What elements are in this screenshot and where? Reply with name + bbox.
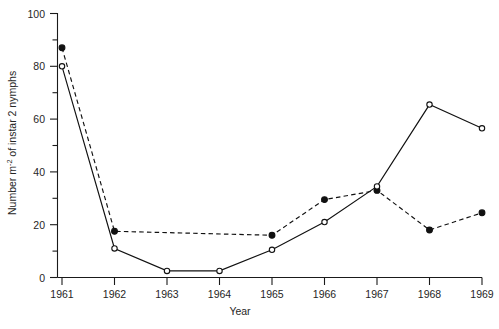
data-point-1963	[164, 268, 169, 273]
x-tick-label-1962: 1962	[103, 288, 127, 300]
x-axis-tick-labels: 1961 1962 1963 1964 1965 1966 1967 1968 …	[50, 288, 494, 300]
y-tick-label-80: 80	[33, 60, 45, 72]
series-line	[62, 48, 482, 235]
data-point-1967	[374, 184, 379, 189]
data-point-1969	[479, 126, 484, 131]
y-tick-label-40: 40	[33, 166, 45, 178]
y-axis-ticks	[50, 14, 58, 278]
data-point-1964	[217, 268, 222, 273]
y-tick-label-100: 100	[27, 8, 45, 20]
series-filled-circle-dashed	[59, 45, 485, 238]
data-point-1965	[269, 232, 275, 238]
x-tick-label-1964: 1964	[208, 288, 232, 300]
x-tick-label-1961: 1961	[50, 288, 74, 300]
x-tick-label-1967: 1967	[365, 288, 389, 300]
y-axis-tick-labels: 100 80 60 40 20 0	[27, 8, 45, 284]
x-tick-label-1969: 1969	[470, 288, 494, 300]
series-line	[62, 66, 482, 271]
x-axis-ticks	[62, 278, 482, 286]
series-open-circle-solid	[59, 64, 484, 274]
data-point-1966	[322, 219, 327, 224]
svg-text:Number m-2 of instar 2 nymphs: Number m-2 of instar 2 nymphs	[5, 71, 18, 215]
y-axis-title-suffix: of instar 2 nymphs	[6, 71, 18, 160]
x-tick-label-1965: 1965	[260, 288, 284, 300]
data-point-1968	[427, 227, 433, 233]
y-tick-label-60: 60	[33, 113, 45, 125]
data-point-1966	[322, 197, 328, 203]
y-tick-label-20: 20	[33, 219, 45, 231]
data-point-1969	[479, 210, 485, 216]
data-point-1961	[59, 64, 64, 69]
y-axis-title: Number m-2 of instar 2 nymphs	[5, 71, 18, 215]
y-tick-label-0: 0	[39, 272, 45, 284]
data-point-1968	[427, 102, 432, 107]
data-point-1965	[269, 247, 274, 252]
x-axis-title: Year	[229, 305, 251, 317]
data-point-1961	[59, 45, 65, 51]
x-tick-label-1968: 1968	[418, 288, 442, 300]
chart-container: Number m-2 of instar 2 nymphs 100 80 60 …	[0, 0, 499, 329]
data-point-1962	[112, 228, 118, 234]
x-tick-label-1963: 1963	[155, 288, 179, 300]
x-tick-label-1966: 1966	[313, 288, 337, 300]
y-axis-title-prefix: Number m	[6, 166, 18, 215]
line-chart-plot: Number m-2 of instar 2 nymphs 100 80 60 …	[0, 0, 499, 329]
data-point-1962	[112, 246, 117, 251]
